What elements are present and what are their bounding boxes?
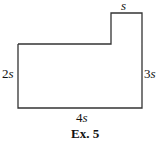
label-top: s [121, 0, 126, 12]
caption: Ex. 5 [71, 127, 99, 140]
label-right: 3s [144, 67, 156, 80]
label-left: 2s [2, 67, 14, 80]
label-bottom: 4s [76, 111, 88, 124]
shape-outline [18, 13, 142, 108]
